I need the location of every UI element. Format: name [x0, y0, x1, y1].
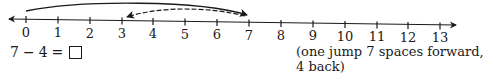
- tick-label: 12: [400, 30, 417, 44]
- tick-label: 0: [22, 25, 30, 40]
- equation-minuend: 7: [10, 44, 19, 60]
- equation-operator: −: [23, 44, 35, 60]
- tick-label: 13: [432, 30, 449, 44]
- number-line-axis: [9, 19, 456, 25]
- tick-labels: 0 1 2 3 4 5 6 7 8 9 10 11 12 13: [22, 25, 448, 44]
- equation-subtrahend: 4: [39, 44, 48, 60]
- tick-label: 1: [54, 25, 62, 40]
- forward-jump-arc: [26, 3, 247, 15]
- tick-label: 11: [369, 29, 386, 44]
- tick-label: 6: [213, 27, 221, 42]
- jump-caption: (one jump 7 spaces forward, 4 back): [296, 44, 484, 74]
- tick-label: 7: [245, 28, 253, 43]
- tick-label: 4: [149, 26, 157, 41]
- tick-label: 5: [181, 27, 189, 42]
- number-line-diagram: 0 1 2 3 4 5 6 7 8 9 10 11 12 13: [0, 0, 464, 44]
- tick-label: 3: [118, 26, 126, 41]
- subtraction-equation: 7 − 4 =: [10, 44, 82, 60]
- caption-line-1: (one jump 7 spaces forward,: [296, 44, 484, 59]
- tick-label: 10: [337, 29, 354, 44]
- tick-label: 8: [277, 28, 285, 43]
- equation-equals: =: [52, 44, 64, 60]
- answer-box[interactable]: [69, 46, 82, 59]
- caption-line-2: 4 back): [296, 59, 484, 74]
- tick-label: 2: [86, 26, 94, 41]
- tick-label: 9: [309, 28, 317, 43]
